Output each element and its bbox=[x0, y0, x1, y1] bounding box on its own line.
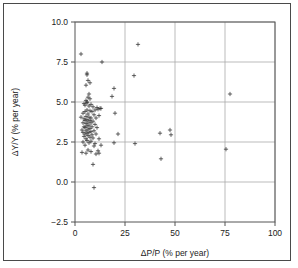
data-point-marker bbox=[82, 134, 86, 138]
y-axis-title: ΔY/Y (% per year) bbox=[10, 88, 20, 157]
data-point-marker bbox=[79, 52, 83, 56]
data-point-marker bbox=[84, 83, 88, 87]
data-point-marker bbox=[81, 121, 85, 125]
y-tick-label: 5.0 bbox=[56, 97, 68, 107]
data-point-marker bbox=[88, 109, 92, 113]
data-point-marker bbox=[92, 113, 96, 117]
data-point-marker bbox=[87, 92, 91, 96]
data-point-marker bbox=[87, 115, 91, 119]
data-point-marker bbox=[92, 144, 96, 148]
x-tick-label: 25 bbox=[120, 228, 130, 238]
data-point-marker bbox=[116, 132, 120, 136]
data-point-marker bbox=[169, 133, 173, 137]
data-point-marker bbox=[228, 92, 232, 96]
data-point-marker bbox=[86, 112, 90, 116]
data-point-marker bbox=[85, 118, 89, 122]
data-point-marker bbox=[94, 132, 98, 136]
data-point-marker bbox=[86, 78, 90, 82]
data-point-marker bbox=[89, 130, 93, 134]
x-tick-label: 50 bbox=[170, 228, 180, 238]
data-point-marker bbox=[82, 125, 86, 129]
x-tick-label: 0 bbox=[73, 228, 78, 238]
data-point-marker bbox=[83, 143, 87, 147]
data-point-marker bbox=[91, 136, 95, 140]
x-axis-title: ΔP/P (% per year) bbox=[141, 248, 210, 258]
data-point-marker bbox=[92, 129, 96, 133]
data-point-marker bbox=[80, 128, 84, 132]
data-point-marker bbox=[85, 131, 89, 135]
data-point-marker bbox=[159, 157, 163, 161]
data-point-marker bbox=[99, 106, 103, 110]
data-point-marker bbox=[93, 122, 97, 126]
data-point-marker bbox=[168, 128, 172, 132]
y-tick-label: 7.5 bbox=[56, 57, 68, 67]
data-point-marker bbox=[99, 143, 103, 147]
data-point-marker bbox=[91, 105, 95, 109]
data-point-marker bbox=[95, 126, 99, 130]
data-point-marker bbox=[158, 131, 162, 135]
data-point-marker bbox=[84, 114, 88, 118]
data-point-marker bbox=[97, 151, 101, 155]
x-tick-label: 100 bbox=[268, 228, 282, 238]
data-points bbox=[79, 42, 232, 189]
y-tick-label: −2.5 bbox=[51, 217, 68, 227]
data-point-marker bbox=[85, 101, 89, 105]
data-point-marker bbox=[97, 137, 101, 141]
data-point-marker bbox=[112, 141, 116, 145]
data-point-marker bbox=[80, 150, 84, 154]
data-point-marker bbox=[84, 151, 88, 155]
data-point-marker bbox=[94, 152, 98, 156]
axis-ticks bbox=[71, 22, 275, 226]
data-point-marker bbox=[88, 81, 92, 85]
y-tick-label: 10.0 bbox=[51, 17, 68, 27]
data-point-marker bbox=[90, 133, 94, 137]
data-point-marker bbox=[97, 114, 101, 118]
data-point-marker bbox=[132, 74, 136, 78]
data-point-marker bbox=[112, 86, 116, 90]
data-point-marker bbox=[91, 162, 95, 166]
data-point-marker bbox=[96, 149, 100, 153]
data-point-marker bbox=[89, 116, 93, 120]
gridlines bbox=[75, 22, 275, 222]
scatter-chart: 0255075100−2.50.02.55.07.510.0 ΔP/P (% p… bbox=[0, 0, 298, 268]
data-point-marker bbox=[92, 186, 96, 190]
data-point-marker bbox=[94, 116, 98, 120]
chart-svg: 0255075100−2.50.02.55.07.510.0 ΔP/P (% p… bbox=[0, 0, 298, 268]
data-point-marker bbox=[100, 60, 104, 64]
data-point-marker bbox=[113, 111, 117, 115]
y-tick-label: 0.0 bbox=[56, 177, 68, 187]
data-point-marker bbox=[224, 147, 228, 151]
y-tick-label: 2.5 bbox=[56, 137, 68, 147]
data-point-marker bbox=[110, 94, 114, 98]
data-point-marker bbox=[136, 42, 140, 46]
data-point-marker bbox=[81, 140, 85, 144]
x-tick-label: 75 bbox=[220, 228, 230, 238]
